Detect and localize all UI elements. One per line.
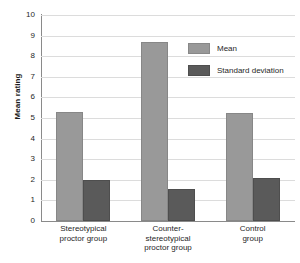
legend-swatch-mean-icon	[188, 43, 210, 54]
legend-swatch-standard-deviation-icon	[188, 65, 210, 76]
legend-item-mean: Mean	[188, 43, 284, 54]
bar-standard-deviation	[168, 189, 195, 221]
x-axis-tick-label-line: Counter-	[123, 224, 213, 234]
x-axis-tick-label: Counter-stereotypicalproctor group	[123, 224, 213, 253]
legend-label-standard-deviation: Standard deviation	[217, 66, 284, 75]
x-axis-tick-label: Controlgroup	[208, 224, 298, 243]
x-axis-tick-label: Stereotypicalproctor group	[38, 224, 128, 243]
legend: Mean Standard deviation	[188, 43, 284, 87]
y-axis-tick-label: 10	[8, 10, 35, 19]
x-axis-tick-label-line: Stereotypical	[38, 224, 128, 234]
bar-mean	[141, 42, 168, 221]
x-axis-line	[41, 221, 295, 222]
bar-standard-deviation	[253, 178, 280, 221]
bar-standard-deviation	[83, 180, 110, 221]
legend-item-standard-deviation: Standard deviation	[188, 65, 284, 76]
gridline	[41, 97, 295, 98]
x-axis-tick-label-line: group	[208, 234, 298, 244]
gridline	[41, 36, 295, 37]
bar-chart: Mean rating 109876543210 Stereotypicalpr…	[0, 0, 300, 263]
y-axis-title: Mean rating	[13, 54, 22, 140]
y-axis-tick-label: 9	[8, 31, 35, 40]
x-axis-tick-label-line: proctor group	[123, 243, 213, 253]
x-axis-tick-label-line: stereotypical	[123, 234, 213, 244]
y-axis-tick-label: 3	[8, 154, 35, 163]
bar-mean	[226, 113, 253, 221]
y-axis-tick-label: 0	[8, 216, 35, 225]
y-axis-tick-label: 2	[8, 175, 35, 184]
y-axis-tick-label: 1	[8, 195, 35, 204]
x-axis-tick-label-line: Control	[208, 224, 298, 234]
gridline	[41, 15, 295, 16]
x-axis-tick-label-line: proctor group	[38, 234, 128, 244]
bar-mean	[56, 112, 83, 221]
legend-label-mean: Mean	[217, 44, 237, 53]
